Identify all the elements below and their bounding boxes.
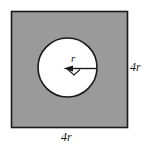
right-side-dimension-label: 4r: [130, 61, 141, 73]
bottom-side-dimension-label: 4r: [61, 131, 72, 143]
geometry-figure: r 4r 4r: [0, 0, 149, 146]
radius-label: r: [71, 53, 75, 64]
figure-canvas: [0, 0, 149, 146]
